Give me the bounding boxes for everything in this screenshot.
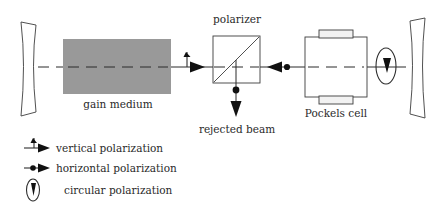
legend-item-horizontal-polarization: horizontal polarization <box>24 162 177 174</box>
legend-label-horizontal-polarization: horizontal polarization <box>56 162 177 174</box>
polarizer-cube <box>213 36 260 83</box>
legend-item-circular-polarization: circular polarization <box>27 179 173 201</box>
polarizer-label: polarizer <box>213 13 262 25</box>
left-cavity-mirror <box>21 22 36 116</box>
horizontal-polarization-marker <box>267 62 290 73</box>
gain-medium-block <box>63 39 171 94</box>
horizontal-polarization-symbol <box>24 164 50 173</box>
legend-label-circular-polarization: circular polarization <box>64 184 173 196</box>
pockels-cell-label: Pockels cell <box>305 107 368 119</box>
circular-polarization-marker <box>376 48 396 84</box>
vertical-polarization-symbol <box>24 138 50 153</box>
cavity-schematic-svg: gain medium polarizer rejected beam <box>0 0 439 209</box>
legend-label-vertical-polarization: vertical polarization <box>55 142 163 154</box>
gain-medium-label: gain medium <box>83 98 152 110</box>
vertical-polarization-marker <box>184 52 206 73</box>
legend: vertical polarization horizontal polariz… <box>24 138 177 201</box>
legend-item-vertical-polarization: vertical polarization <box>24 138 163 154</box>
rejected-beam-marker <box>231 83 242 117</box>
laser-cavity-diagram: gain medium polarizer rejected beam <box>0 0 439 209</box>
circular-polarization-symbol <box>27 179 40 201</box>
right-cavity-mirror <box>410 18 425 118</box>
pockels-cell-block <box>305 30 367 104</box>
rejected-beam-label: rejected beam <box>199 123 275 135</box>
